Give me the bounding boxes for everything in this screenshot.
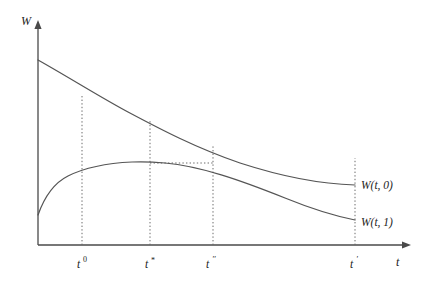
x-axis-label: t xyxy=(396,255,400,269)
x-tick-t0-base: t xyxy=(77,258,81,270)
x-tick-t-star-base: t xyxy=(145,258,149,270)
x-tick-label-t0: t 0 xyxy=(77,255,87,270)
curve-label-w-t-0: W(t, 0) xyxy=(361,179,393,192)
curve-w-t-0 xyxy=(38,60,355,185)
y-axis-arrowhead xyxy=(34,20,41,29)
chart-figure: W t t 0 t * t ′′ t ′ W(t, 0) xyxy=(0,0,426,283)
axes-group xyxy=(34,20,411,249)
x-tick-t-prime-superscript: ′ xyxy=(356,254,358,264)
guide-lines-group xyxy=(82,95,355,245)
axis-labels-group: W t xyxy=(21,14,400,269)
chart-svg: W t t 0 t * t ′′ t ′ W(t, 0) xyxy=(0,0,426,283)
x-tick-t-double-prime-superscript: ′′ xyxy=(212,254,216,264)
x-tick-t-double-prime-base: t xyxy=(206,258,210,270)
x-axis-arrowhead xyxy=(402,241,411,248)
y-axis-label: W xyxy=(21,14,32,28)
x-tick-label-t-star: t * xyxy=(145,256,155,270)
x-tick-labels-group: t 0 t * t ′′ t ′ xyxy=(77,254,358,270)
curve-label-w-t-1: W(t, 1) xyxy=(361,216,393,229)
x-tick-t-star-superscript: * xyxy=(151,256,155,265)
x-tick-t-prime-base: t xyxy=(350,258,354,270)
x-tick-label-t-prime: t ′ xyxy=(350,254,358,270)
x-tick-t0-superscript: 0 xyxy=(83,255,87,264)
curve-w-t-1 xyxy=(38,162,355,220)
x-tick-label-t-double-prime: t ′′ xyxy=(206,254,216,270)
curves-group xyxy=(38,60,355,220)
curve-labels-group: W(t, 0) W(t, 1) xyxy=(361,179,393,229)
